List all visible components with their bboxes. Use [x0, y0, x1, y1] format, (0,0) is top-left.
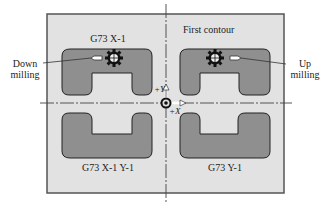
label-first-contour: First contour — [183, 24, 234, 35]
diagram-canvas: G73 X-1 First contour G73 X-1 Y-1 G73 Y-… — [0, 0, 330, 208]
label-milling-right: milling — [285, 69, 325, 80]
feed-arrow-right-icon — [230, 56, 241, 60]
label-milling-left: milling — [5, 69, 45, 80]
label-up: Up — [285, 58, 325, 69]
cutter-tool-icon-left — [105, 49, 123, 67]
label-g73-x-1-y-1: G73 X-1 Y-1 — [72, 162, 144, 173]
cutter-tool-icon-right — [206, 49, 224, 67]
axis-label-plus-x: +X — [169, 106, 181, 116]
label-g73-x-1: G73 X-1 — [78, 33, 138, 44]
label-g73-y-1: G73 Y-1 — [195, 162, 255, 173]
label-down: Down — [5, 58, 45, 69]
diagram-svg — [0, 0, 330, 208]
feed-arrow-left-icon — [91, 56, 102, 60]
axis-label-plus-y: +Y — [154, 84, 165, 94]
